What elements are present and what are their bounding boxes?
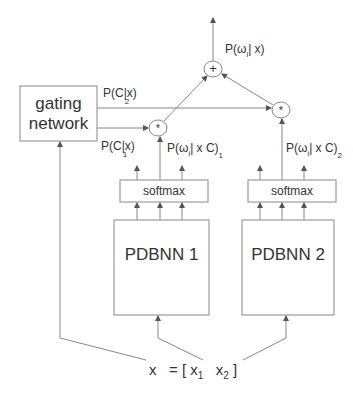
expert1-prob-label: P(ωi| x C)1 xyxy=(167,142,223,154)
gating-label-line1: gating xyxy=(20,94,97,114)
diagram-canvas xyxy=(0,0,353,401)
gating-label-line2: network xyxy=(20,114,97,134)
pdbnn1-label: PDBNN 1 xyxy=(114,245,209,265)
pdbnn2-label: PDBNN 2 xyxy=(242,245,334,265)
mult1-symbol: * xyxy=(149,122,167,134)
pdbnn1-box xyxy=(114,220,209,315)
sum-symbol: + xyxy=(204,61,222,76)
mult2-symbol: * xyxy=(272,104,290,116)
gating-prob-c2-label: P(C|x)2 xyxy=(103,87,129,99)
softmax2-label: softmax xyxy=(248,184,336,198)
expert2-prob-label: P(ωi| x C)2 xyxy=(286,142,342,154)
input-vector-label: x = [ x1 x2 ] xyxy=(149,362,237,377)
gating-prob-c1-label: P(C|x)1 xyxy=(101,140,127,152)
softmax1-label: softmax xyxy=(120,184,208,198)
pdbnn2-box xyxy=(242,220,334,315)
output-prob-label: P(ωi| x) xyxy=(225,43,265,55)
gating-network-label: gating network xyxy=(20,94,97,134)
